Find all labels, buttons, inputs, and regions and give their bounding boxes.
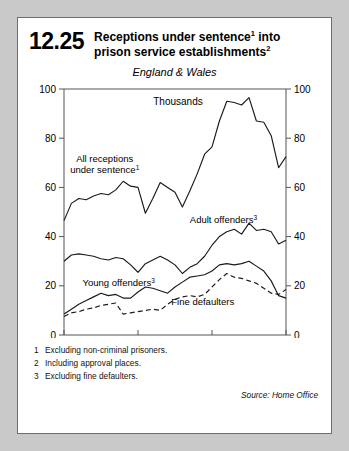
y-tick-label-right: 80	[294, 133, 306, 144]
series-label-fine-defaulters: Fine defaulters	[171, 296, 234, 307]
footnote-number: 3	[34, 370, 41, 383]
y-tick-label-left: 100	[39, 84, 56, 95]
footnote-text: Including approval places.	[45, 357, 141, 370]
y-tick-label-right: 20	[294, 280, 306, 291]
footnote-number: 2	[34, 357, 41, 370]
chart-area: England & Wales Thousands002020404060608…	[18, 66, 331, 338]
footnote-list: 1 Excluding non-criminal prisoners. 2 In…	[18, 338, 331, 383]
y-tick-label-right: 40	[294, 231, 306, 242]
chart-unit-label: Thousands	[153, 96, 202, 107]
footnote-item: 1 Excluding non-criminal prisoners.	[34, 344, 319, 357]
series-label-all-receptions: All receptions	[76, 153, 133, 164]
series-label-all-receptions-line2: under sentence1	[70, 164, 140, 175]
y-tick-label-left: 80	[45, 133, 57, 144]
y-tick-label-left: 40	[45, 231, 57, 242]
line-chart: Thousands0020204040606080801001001961197…	[18, 66, 331, 338]
series-line-adult-offenders	[64, 223, 286, 273]
figure-title-footnote-2: 2	[266, 44, 270, 53]
figure-header: 12.25 Receptions under sentence1 into pr…	[18, 18, 331, 60]
figure-title-line1-tail: into	[255, 30, 280, 44]
series-label-young-offenders: Young offenders3	[83, 277, 156, 288]
y-tick-label-right: 60	[294, 182, 306, 193]
y-tick-label-right: 100	[294, 84, 311, 95]
y-tick-label-right: 0	[294, 330, 300, 339]
figure-title-line2: prison service establishments	[94, 45, 266, 59]
y-tick-label-left: 0	[50, 330, 56, 339]
figure-title: Receptions under sentence1 into prison s…	[94, 29, 280, 60]
y-tick-label-left: 60	[45, 182, 57, 193]
y-tick-label-left: 20	[45, 280, 57, 291]
figure-number: 12.25	[29, 29, 84, 53]
figure-panel: 12.25 Receptions under sentence1 into pr…	[17, 17, 332, 434]
footnote-text: Excluding fine defaulters.	[45, 370, 138, 383]
footnote-text: Excluding non-criminal prisoners.	[45, 344, 167, 357]
figure-title-line1: Receptions under sentence	[94, 30, 251, 44]
footnote-number: 1	[34, 344, 41, 357]
footnote-item: 2 Including approval places.	[34, 357, 319, 370]
footnote-item: 3 Excluding fine defaulters.	[34, 370, 319, 383]
chart-region-label: England & Wales	[18, 66, 331, 78]
source-note: Source: Home Office	[18, 383, 331, 400]
series-label-adult-offenders: Adult offenders3	[190, 214, 258, 225]
